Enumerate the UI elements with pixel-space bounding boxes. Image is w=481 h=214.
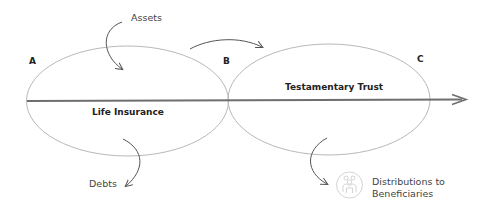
debts-label: Debts (89, 179, 117, 189)
point-b-label: B (223, 57, 230, 66)
testamentary-trust-label: Testamentary Trust (285, 83, 383, 92)
life-insurance-label: Life Insurance (92, 108, 164, 117)
distributions-label-line2: Beneficiaries (372, 189, 433, 199)
timeline-axis (27, 100, 462, 102)
people-group-icon (337, 172, 363, 198)
debts-flow-arrow (123, 139, 140, 186)
assets-label: Assets (131, 13, 162, 23)
distributions-flow-arrow (311, 138, 328, 184)
assets-flow-arrow (106, 22, 122, 69)
transition-arrow (190, 40, 262, 49)
distributions-label-line1: Distributions to (372, 177, 445, 187)
point-a-label: A (29, 57, 36, 66)
point-c-label: C (417, 55, 424, 64)
